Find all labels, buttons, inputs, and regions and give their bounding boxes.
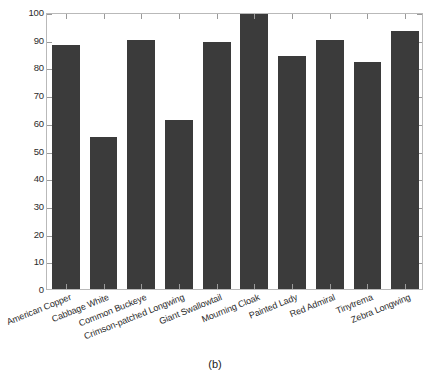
x-tick-mark — [367, 14, 368, 19]
x-tick-mark — [217, 284, 218, 289]
y-tick-label: 30 — [4, 202, 44, 212]
y-tick-label: 40 — [4, 174, 44, 184]
x-tick-mark — [141, 284, 142, 289]
plot-area — [46, 13, 423, 290]
x-tick-mark — [66, 284, 67, 289]
x-tick-mark — [330, 14, 331, 19]
x-tick-mark — [405, 284, 406, 289]
y-tick-mark — [47, 14, 52, 15]
bar — [127, 40, 155, 289]
x-tick-mark — [66, 14, 67, 19]
bar — [90, 137, 118, 289]
x-tick-mark — [104, 14, 105, 19]
bar — [354, 62, 382, 289]
bar — [203, 42, 231, 289]
x-tick-mark — [292, 14, 293, 19]
x-tick-mark — [179, 14, 180, 19]
x-tick-mark — [254, 14, 255, 19]
bar — [52, 45, 80, 289]
y-tick-label: 100 — [4, 8, 44, 18]
bar — [278, 56, 306, 289]
y-tick-label: 80 — [4, 63, 44, 73]
x-tick-mark — [179, 284, 180, 289]
x-tick-mark — [254, 284, 255, 289]
x-tick-mark — [405, 14, 406, 19]
bar — [165, 120, 193, 289]
y-tick-label: 90 — [4, 36, 44, 46]
bar — [316, 40, 344, 289]
x-tick-mark — [104, 284, 105, 289]
x-tick-mark — [292, 284, 293, 289]
bar — [240, 13, 268, 289]
x-tick-mark — [217, 14, 218, 19]
x-tick-mark — [367, 284, 368, 289]
y-tick-label: 50 — [4, 147, 44, 157]
x-axis: American CopperCabbage WhiteCommon Bucke… — [0, 292, 430, 362]
x-tick-mark — [330, 284, 331, 289]
x-tick-mark — [141, 14, 142, 19]
y-tick-label: 60 — [4, 119, 44, 129]
y-tick-label: 70 — [4, 91, 44, 101]
y-tick-label: 20 — [4, 230, 44, 240]
y-tick-mark — [47, 42, 52, 43]
figure-panel-b: 0102030405060708090100 American CopperCa… — [0, 0, 430, 382]
y-tick-mark — [417, 14, 422, 15]
bar — [391, 31, 419, 289]
figure-caption: (b) — [0, 358, 430, 370]
y-tick-label: 10 — [4, 257, 44, 267]
